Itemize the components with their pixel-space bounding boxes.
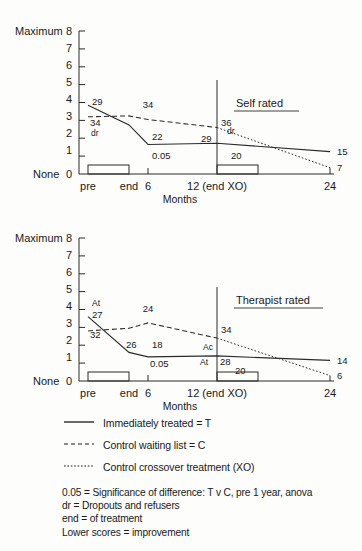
y-tick-7: 7 [66, 42, 72, 54]
x-tick-12: 12 (end XO) [187, 387, 247, 399]
dashed-line-key-icon [62, 439, 96, 451]
label-ther-12m-ac: Ac [203, 342, 214, 352]
x-tick-12: 12 (end XO) [187, 180, 247, 192]
y-tick-8: 8 [66, 232, 72, 244]
label-self-6m-c-n: 34 [143, 99, 154, 110]
y-tick-5: 5 [66, 76, 72, 88]
label-self-12m-xo-n: 20 [231, 150, 242, 161]
label-ther-pre-t-n: 27 [92, 309, 103, 320]
legend-label-immediately-treated: Immediately treated = T [103, 417, 211, 429]
y-tick-3: 3 [66, 110, 72, 122]
label-self-12m-t-n: 29 [201, 133, 212, 144]
y-tick-8: 8 [66, 25, 72, 37]
series-line-immediately-treated [88, 105, 330, 151]
label-ther-pre-at: At [92, 298, 101, 308]
series-line-immediately-treated [88, 317, 330, 361]
y-axis-min-label: None [33, 375, 59, 387]
treatment-bar-crossover [217, 165, 258, 174]
x-axis-title: Months [163, 193, 197, 205]
y-tick-4: 4 [66, 93, 72, 105]
label-ther-6m-c-n: 24 [143, 303, 154, 314]
label-self-6m-t-n: 22 [152, 131, 163, 142]
x-axis-title: Months [163, 400, 197, 412]
label-ther-12m-t-n: 28 [220, 356, 231, 367]
y-tick-2: 2 [66, 334, 72, 346]
label-ther-6m-t-n: 18 [152, 339, 163, 350]
legend-item-control-crossover: Control crossover treatment (XO) [0, 456, 362, 478]
label-ther-24m-t-n: 14 [337, 355, 348, 366]
y-tick-6: 6 [66, 266, 72, 278]
treatment-bar-initial [88, 165, 129, 174]
x-tick-end: end [120, 180, 138, 192]
label-ther-pre-c-n: 32 [90, 329, 101, 340]
y-tick-4: 4 [66, 300, 72, 312]
y-tick-7: 7 [66, 249, 72, 261]
y-axis-min-label: None [33, 168, 59, 180]
note-significance: 0.05 = Significance of difference: T v C… [62, 486, 362, 499]
panel-title-self-rated: Self rated [236, 97, 283, 109]
label-self-12m-dr: dr [227, 126, 235, 136]
figure-page: Maximum None 8 7 6 5 4 3 2 1 0 [0, 0, 362, 551]
note-lower-scores: Lower scores = improvement [62, 526, 362, 539]
y-tick-5: 5 [66, 283, 72, 295]
figure-notes: 0.05 = Significance of difference: T v C… [0, 486, 362, 539]
label-ther-12m-xo-n: 20 [235, 365, 246, 376]
label-self-24m-xo-n: 7 [337, 162, 342, 173]
y-tick-1: 1 [66, 351, 72, 363]
label-self-pre-t-n: 29 [92, 96, 103, 107]
label-ther-12m-at: At [200, 357, 209, 367]
label-ther-12m-c-n: 34 [221, 324, 232, 335]
panel-title-therapist-rated: Therapist rated [236, 294, 310, 306]
series-line-control-waiting-list [88, 323, 217, 338]
series-line-control-waiting-list [88, 116, 217, 128]
label-self-pre-c-n: 34 [90, 117, 101, 128]
x-tick-6: 6 [145, 387, 151, 399]
label-ther-end-t-n: 26 [126, 339, 137, 350]
y-tick-2: 2 [66, 127, 72, 139]
solid-line-key-icon [62, 417, 96, 429]
legend-item-control-waiting-list: Control waiting list = C [0, 434, 362, 456]
x-tick-pre: pre [80, 387, 96, 399]
legend-item-immediately-treated: Immediately treated = T [0, 412, 362, 434]
dotted-line-key-icon [62, 461, 96, 473]
y-tick-6: 6 [66, 59, 72, 71]
self-rated-plot: Maximum None 8 7 6 5 4 3 2 1 0 [0, 0, 362, 205]
chart-panel-self-rated: Maximum None 8 7 6 5 4 3 2 1 0 [0, 0, 362, 205]
y-axis-max-label: Maximum [15, 25, 63, 37]
x-tick-6: 6 [145, 180, 151, 192]
y-tick-0: 0 [66, 168, 72, 180]
x-tick-pre: pre [80, 180, 96, 192]
label-ther-24m-xo-n: 6 [337, 370, 342, 381]
therapist-rated-plot: Maximum None 8 7 6 5 4 3 2 1 0 [0, 207, 362, 412]
label-self-6m-sig: 0.05 [152, 150, 171, 161]
note-dropouts: dr = Dropouts and refusers [62, 499, 362, 512]
treatment-bar-initial [88, 372, 129, 381]
legend-label-control-waiting-list: Control waiting list = C [103, 439, 205, 451]
note-end: end = of treatment [62, 512, 362, 525]
label-ther-6m-sig: 0.05 [150, 358, 169, 369]
chart-panel-therapist-rated: Maximum None 8 7 6 5 4 3 2 1 0 [0, 207, 362, 412]
x-tick-24: 24 [324, 180, 336, 192]
label-self-pre-dr: dr [91, 128, 99, 138]
y-tick-3: 3 [66, 317, 72, 329]
y-tick-1: 1 [66, 144, 72, 156]
y-tick-0: 0 [66, 375, 72, 387]
figure-legend-and-notes: Immediately treated = T Control waiting … [0, 412, 362, 551]
legend-label-control-crossover: Control crossover treatment (XO) [103, 461, 254, 473]
x-tick-24: 24 [324, 387, 336, 399]
x-tick-end: end [120, 387, 138, 399]
label-self-24m-t-n: 15 [337, 146, 348, 157]
y-axis-max-label: Maximum [15, 232, 63, 244]
